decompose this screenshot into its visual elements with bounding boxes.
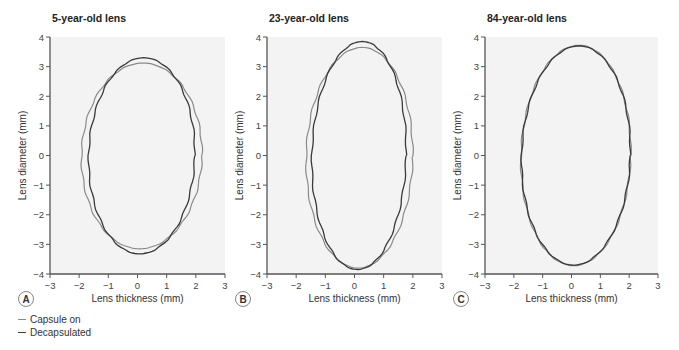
x-tick-label: 1: [164, 280, 169, 291]
y-tick-label: 4: [39, 32, 44, 43]
legend-label: Capsule on: [30, 313, 81, 326]
plot-area: [485, 37, 658, 274]
x-tick-label: 1: [598, 280, 603, 291]
y-tick-label: 1: [39, 120, 44, 131]
x-tick-label: 3: [439, 280, 444, 291]
y-tick-label: 2: [39, 91, 44, 102]
y-tick-label: 2: [474, 91, 479, 102]
y-tick-label: −2: [250, 209, 261, 220]
panel-a: 5-year-old lens−4−3−2−101234−3−2−10123Le…: [17, 12, 228, 307]
chart-title: 84-year-old lens: [487, 12, 567, 24]
y-tick-label: 1: [474, 120, 479, 131]
panel-letter: A: [22, 294, 29, 305]
y-tick-label: 0: [39, 150, 44, 161]
y-tick-label: −4: [33, 269, 44, 280]
panel-c: 84-year-old lens−4−3−2−101234−3−2−10123L…: [452, 12, 661, 307]
legend: Capsule on Decapsulated: [18, 313, 91, 339]
y-tick-label: −4: [468, 269, 479, 280]
y-tick-label: −4: [250, 269, 261, 280]
x-tick-label: 2: [410, 280, 415, 291]
panel-letter: B: [239, 294, 246, 305]
lens-shape-figure: 5-year-old lens−4−3−2−101234−3−2−10123Le…: [0, 0, 679, 350]
x-tick-label: 1: [381, 280, 386, 291]
x-axis-label: Lens thickness (mm): [91, 293, 183, 304]
legend-swatch-capsule-on: [18, 319, 26, 320]
y-tick-label: 1: [256, 120, 261, 131]
legend-item-decapsulated: Decapsulated: [18, 326, 91, 339]
y-tick-label: −3: [33, 239, 44, 250]
panel-b: 23-year-old lens−4−3−2−101234−3−2−10123L…: [234, 12, 445, 307]
x-tick-label: −2: [74, 280, 85, 291]
x-tick-label: −2: [508, 280, 519, 291]
x-axis-label: Lens thickness (mm): [308, 293, 400, 304]
y-tick-label: 2: [256, 91, 261, 102]
y-tick-label: 0: [474, 150, 479, 161]
x-tick-label: 0: [569, 280, 574, 291]
y-tick-label: −3: [468, 239, 479, 250]
legend-swatch-decapsulated: [18, 332, 26, 333]
chart-title: 23-year-old lens: [269, 12, 349, 24]
y-tick-label: 3: [474, 61, 479, 72]
y-axis-label: Lens diameter (mm): [234, 111, 245, 200]
y-tick-label: −1: [33, 180, 44, 191]
x-tick-label: 2: [627, 280, 632, 291]
y-tick-label: −1: [468, 180, 479, 191]
x-tick-label: 3: [222, 280, 227, 291]
y-tick-label: −1: [250, 180, 261, 191]
x-tick-label: −2: [291, 280, 302, 291]
x-tick-label: −1: [103, 280, 114, 291]
x-tick-label: −3: [480, 280, 491, 291]
y-tick-label: 4: [474, 32, 479, 43]
panel-letter: C: [457, 294, 464, 305]
x-tick-label: −3: [262, 280, 273, 291]
x-tick-label: 0: [352, 280, 357, 291]
x-axis-label: Lens thickness (mm): [525, 293, 617, 304]
y-tick-label: 0: [256, 150, 261, 161]
x-tick-label: 3: [655, 280, 660, 291]
x-tick-label: −1: [537, 280, 548, 291]
y-axis-label: Lens diameter (mm): [452, 111, 463, 200]
x-tick-label: 0: [135, 280, 140, 291]
y-tick-label: −3: [250, 239, 261, 250]
y-axis-label: Lens diameter (mm): [17, 111, 28, 200]
x-tick-label: 2: [193, 280, 198, 291]
legend-label: Decapsulated: [30, 326, 91, 339]
chart-title: 5-year-old lens: [52, 12, 126, 24]
y-tick-label: 4: [256, 32, 261, 43]
y-tick-label: −2: [33, 209, 44, 220]
y-tick-label: 3: [39, 61, 44, 72]
legend-item-capsule-on: Capsule on: [18, 313, 91, 326]
x-tick-label: −1: [320, 280, 331, 291]
y-tick-label: −2: [468, 209, 479, 220]
y-tick-label: 3: [256, 61, 261, 72]
x-tick-label: −3: [45, 280, 56, 291]
plot-area: [50, 37, 225, 274]
plot-area: [267, 37, 442, 274]
